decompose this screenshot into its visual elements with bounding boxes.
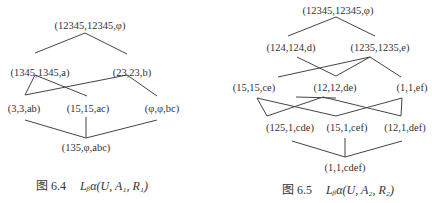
node-124: (124,124,d) [267,42,316,54]
caption-6-4: 图 6.4Lᵦα(U, A₁, R₁) [36,176,148,194]
caption-label: 图 6.4 [36,179,66,193]
node-125: (125,1,cde) [266,122,314,134]
node-23: (23,23,b) [113,67,152,79]
lattice-diagram-6-4: (12345,12345,φ) (1345,1345,a) (23,23,b) … [0,0,210,203]
node-15-cef: (15,1,cef) [327,122,368,134]
node-12-de: (12,12,de) [313,82,356,94]
node-15: (15,15,ac) [67,103,110,115]
node-top: (12345,12345,φ) [303,5,374,17]
node-top: (12345,12345,φ) [55,20,126,32]
lattice-diagram-6-5: (12345,12345,φ) (124,124,d) (1235,1235,e… [220,0,432,203]
caption-formula: Lᵦα(U, A₁, R₁) [80,179,148,193]
node-bottom: (135,φ,abc) [62,142,111,154]
node-15-ce: (15,15,ce) [233,82,276,94]
node-1-ef: (1,1,ef) [397,82,428,94]
node-1345: (1345,1345,a) [11,67,70,79]
caption-label: 图 6.5 [282,183,312,197]
caption-formula: Lᵦα(U, A₂, R₂) [326,183,394,197]
node-3: (3,3,ab) [8,103,41,115]
node-phi: (φ,φ,bc) [145,103,179,115]
node-12-def: (12,1,def) [384,122,425,134]
caption-6-5: 图 6.5Lᵦα(U, A₂, R₂) [282,180,394,198]
node-1235: (1235,1235,e) [351,42,410,54]
node-bottom: (1,1,cdef) [325,162,366,174]
